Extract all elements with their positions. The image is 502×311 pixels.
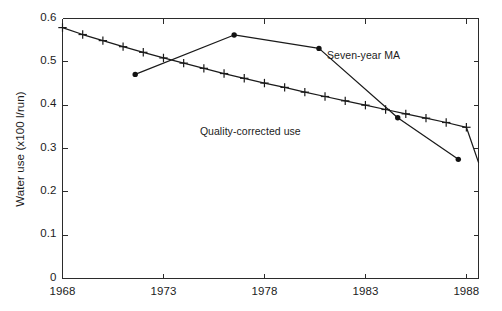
y-tick-label: 0.5 [40,54,56,66]
axis-frame [63,19,479,279]
chart-plot-area [0,0,502,311]
y-tick-label: 0.3 [40,141,56,153]
series-quality-corrected-use [58,23,478,162]
x-tick-label: 1973 [133,285,193,297]
y-tick-label: 0 [50,271,57,283]
series-annotation-quality-corrected-use: Quality-corrected use [200,125,301,137]
series-seven-year-ma [132,32,461,162]
y-tick-label: 0.4 [40,97,56,109]
series-annotation-seven-year-ma: Seven-year MA [327,49,400,61]
chart-figure: Water use (x100 l/run) 00.10.20.30.40.50… [0,0,502,311]
y-tick-label: 0.6 [40,11,56,23]
x-tick-label: 1968 [33,285,93,297]
x-tick-label: 1988 [436,285,496,297]
x-tick-label: 1983 [335,285,395,297]
y-axis-ticks [63,19,479,279]
y-tick-label: 0.2 [40,184,56,196]
y-tick-label: 0.1 [40,227,56,239]
x-tick-label: 1978 [234,285,294,297]
x-axis-ticks [163,19,466,279]
